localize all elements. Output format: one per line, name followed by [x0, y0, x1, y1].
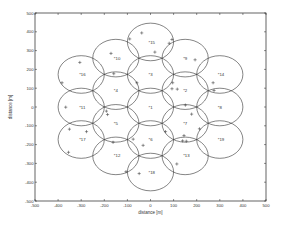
- cell-label: *17: [79, 137, 86, 142]
- x-tick-label: -400: [54, 203, 63, 208]
- cell-label: *3: [149, 72, 154, 77]
- user-marker: [193, 58, 196, 61]
- user-marker: [105, 110, 108, 113]
- y-tick-label: -400: [25, 180, 34, 185]
- user-marker: [132, 138, 135, 141]
- cell-label: *8: [218, 105, 223, 110]
- cell-label: *4: [114, 88, 119, 93]
- user-marker: [184, 104, 187, 107]
- y-axis-label: distance [m]: [8, 95, 13, 119]
- x-tick-label: 0: [149, 203, 152, 208]
- user-marker: [68, 128, 71, 131]
- cell-label: *7: [183, 121, 188, 126]
- cell-label: *10: [114, 56, 121, 61]
- cell-label: *6: [149, 137, 154, 142]
- user-marker: [190, 113, 193, 116]
- y-tick-label: -500: [25, 199, 34, 204]
- user-marker: [182, 134, 185, 137]
- y-tick-label: 100: [27, 86, 35, 91]
- user-marker: [85, 130, 88, 133]
- cell-layout-chart: *1*2*3*4*5*6*7*8*9*10*11*12*13*14*15*16*…: [0, 0, 284, 225]
- cell-label: *18: [149, 170, 156, 175]
- x-axis-label: distance [m]: [138, 210, 162, 215]
- user-marker: [135, 81, 138, 84]
- x-tick-label: 400: [239, 203, 247, 208]
- user-marker: [142, 144, 145, 147]
- x-tick-label: 100: [170, 203, 178, 208]
- y-tick-label: 400: [27, 29, 35, 34]
- user-marker: [212, 81, 215, 84]
- x-tick-label: -200: [100, 203, 109, 208]
- user-marker: [164, 130, 167, 133]
- cell-label: *14: [218, 72, 225, 77]
- cell-label: *9: [183, 56, 188, 61]
- user-marker: [198, 127, 201, 130]
- y-tick-label: -200: [25, 142, 34, 147]
- y-tick-label: -300: [25, 161, 34, 166]
- user-marker: [176, 88, 179, 91]
- user-marker: [78, 61, 81, 64]
- x-tick-label: 200: [193, 203, 201, 208]
- user-marker: [140, 31, 143, 34]
- user-marker: [67, 151, 70, 154]
- x-tick-label: -300: [77, 203, 86, 208]
- x-tick-label: -100: [123, 203, 132, 208]
- cell-label: *1: [149, 105, 154, 110]
- user-marker: [170, 87, 173, 90]
- user-marker: [153, 51, 156, 54]
- y-tick-label: 0: [31, 105, 34, 110]
- cell-label: *5: [114, 121, 119, 126]
- cell-label: *13: [183, 153, 190, 158]
- user-marker: [212, 89, 215, 92]
- user-marker: [175, 162, 178, 165]
- cell-label: *12: [114, 153, 121, 158]
- y-tick-label: -100: [25, 123, 34, 128]
- cell-label: *16: [79, 72, 86, 77]
- y-tick-label: 500: [27, 11, 35, 16]
- cell-labels: *1*2*3*4*5*6*7*8*9*10*11*12*13*14*15*16*…: [79, 40, 225, 175]
- cell-label: *2: [183, 88, 188, 93]
- cell-label: *15: [149, 40, 156, 45]
- user-marker: [138, 172, 141, 175]
- x-tick-label: 500: [263, 203, 271, 208]
- y-axis-ticks: 5004003002001000-100-200-300-400-500: [25, 11, 266, 204]
- cell-label: *19: [218, 137, 225, 142]
- y-tick-label: 300: [27, 48, 35, 53]
- user-marker: [106, 113, 109, 116]
- y-tick-label: 200: [27, 67, 35, 72]
- user-marker: [168, 42, 171, 45]
- user-marker: [64, 106, 67, 109]
- user-marker: [109, 52, 112, 55]
- x-tick-label: 300: [216, 203, 224, 208]
- user-marker: [112, 72, 115, 75]
- cell-label: *11: [79, 105, 86, 110]
- user-marker: [111, 141, 114, 144]
- user-marker: [128, 37, 131, 40]
- user-marker: [171, 81, 174, 84]
